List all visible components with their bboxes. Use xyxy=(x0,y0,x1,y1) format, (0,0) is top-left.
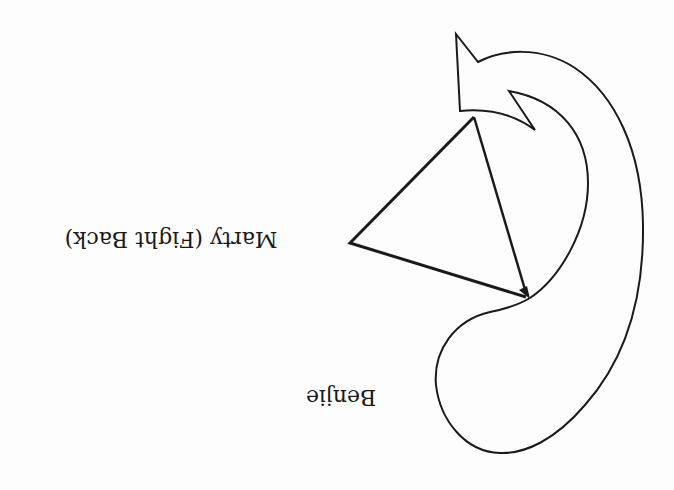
benjie-label: Benjie xyxy=(296,386,386,408)
marty-label: Marty (Fight Back) xyxy=(43,228,299,250)
curved-arrow-shape xyxy=(436,34,643,453)
diagram-canvas: Marty (Fight Back) Benjie xyxy=(0,0,674,490)
arrow-line xyxy=(474,117,526,293)
